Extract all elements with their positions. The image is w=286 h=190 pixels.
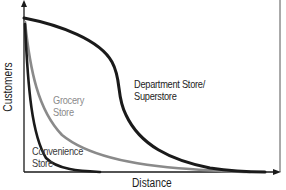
grocery-store-label-line1: Grocery — [53, 94, 84, 106]
x-axis-label: Distance — [132, 176, 172, 190]
department-store-label-line1: Department Store/ — [134, 78, 205, 90]
y-axis-label: Customers — [1, 62, 15, 113]
y-axis-arrow-icon — [21, 0, 27, 7]
convenience-store-label-line2: Store — [32, 157, 53, 169]
grocery-store-label-line2: Store — [53, 106, 74, 118]
convenience-store-label-line1: Convenience — [32, 145, 83, 157]
department-store-label-line2: Superstore — [134, 90, 177, 102]
